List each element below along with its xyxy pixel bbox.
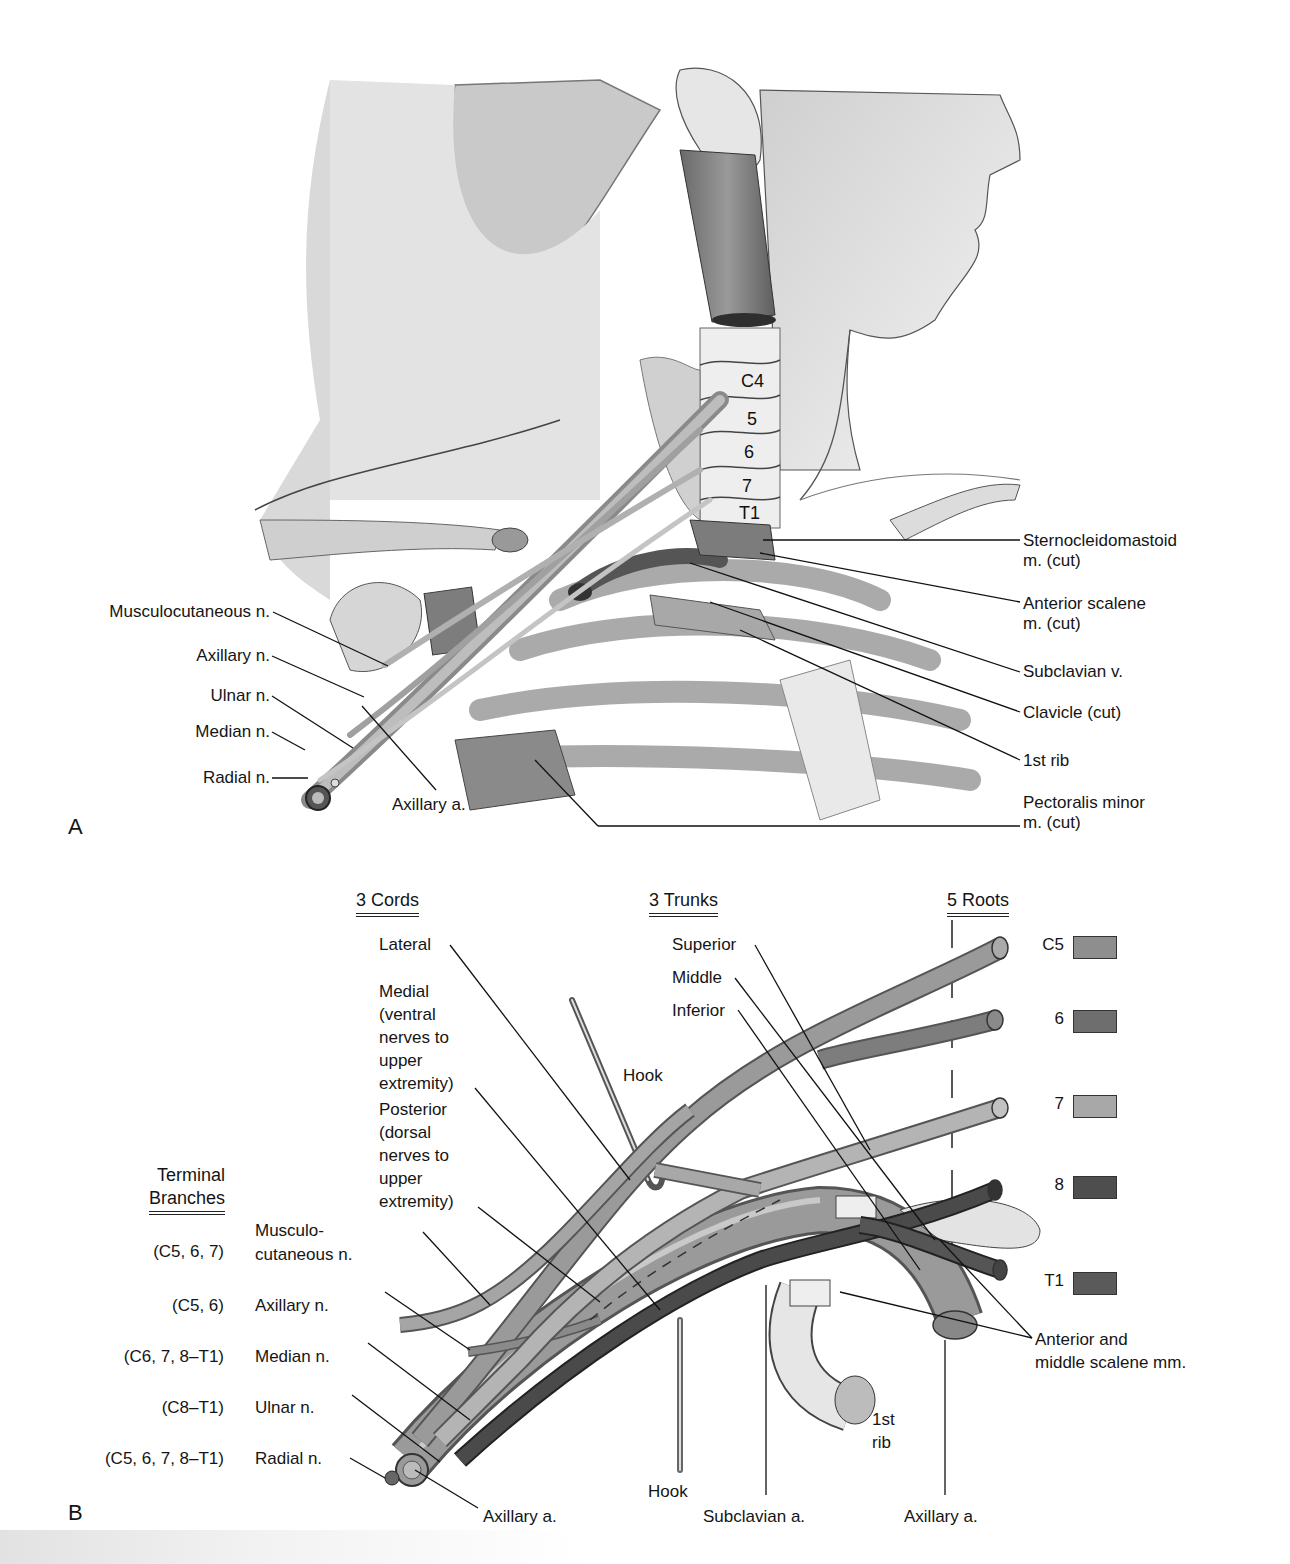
branch-roots-median: (C6, 7, 8–T1) [124, 1347, 224, 1367]
root-label-t1: T1 [1044, 1271, 1064, 1291]
root-swatch-8 [1073, 1176, 1117, 1199]
header-terminal: Terminal [157, 1165, 225, 1185]
root-label-7: 7 [1055, 1094, 1064, 1114]
root-swatch-6 [1073, 1010, 1117, 1033]
nerve-roots-trunks [400, 948, 1000, 1460]
label-cord-posterior: Posterior (dorsal nerves to upper extrem… [379, 1098, 454, 1213]
label-1st-rib-b: 1st rib [872, 1408, 895, 1454]
branch-name-musculocutaneous: Musculo- cutaneous n. [255, 1219, 352, 1267]
header-branches: Branches [149, 1188, 225, 1212]
label-trunk-inferior: Inferior [672, 1001, 725, 1021]
root-label-8: 8 [1055, 1175, 1064, 1195]
label-cord-lateral: Lateral [379, 935, 431, 955]
branch-name-median: Median n. [255, 1347, 330, 1367]
header-3-trunks: 3 Trunks [649, 890, 718, 914]
label-cord-medial: Medial (ventral nerves to upper extremit… [379, 980, 454, 1095]
label-axillary-a-left: Axillary a. [483, 1507, 557, 1527]
page-bottom-edge [0, 1530, 1290, 1564]
label-axillary-a-right: Axillary a. [904, 1507, 978, 1527]
branch-roots-ulnar: (C8–T1) [162, 1398, 224, 1418]
root-label-6: 6 [1055, 1009, 1064, 1029]
branch-name-axillary: Axillary n. [255, 1296, 329, 1316]
root-swatch-t1 [1073, 1272, 1117, 1295]
label-scalene-mm: Anterior and middle scalene mm. [1035, 1328, 1186, 1374]
root-swatch-7 [1073, 1095, 1117, 1118]
branch-name-radial: Radial n. [255, 1449, 322, 1469]
label-trunk-superior: Superior [672, 935, 736, 955]
panel-letter-b: B [68, 1500, 83, 1526]
root-label-c5: C5 [1042, 935, 1064, 955]
root-swatch-c5 [1073, 936, 1117, 959]
label-hook-bottom: Hook [648, 1482, 688, 1502]
label-trunk-middle: Middle [672, 968, 722, 988]
label-hook-top: Hook [623, 1066, 663, 1086]
header-5-roots: 5 Roots [947, 890, 1009, 914]
header-3-cords: 3 Cords [356, 890, 419, 914]
branch-name-ulnar: Ulnar n. [255, 1398, 315, 1418]
branch-roots-axillary: (C5, 6) [172, 1296, 224, 1316]
branch-roots-musculocutaneous: (C5, 6, 7) [153, 1242, 224, 1262]
label-subclavian-a: Subclavian a. [703, 1507, 805, 1527]
branch-roots-radial: (C5, 6, 7, 8–T1) [105, 1449, 224, 1469]
